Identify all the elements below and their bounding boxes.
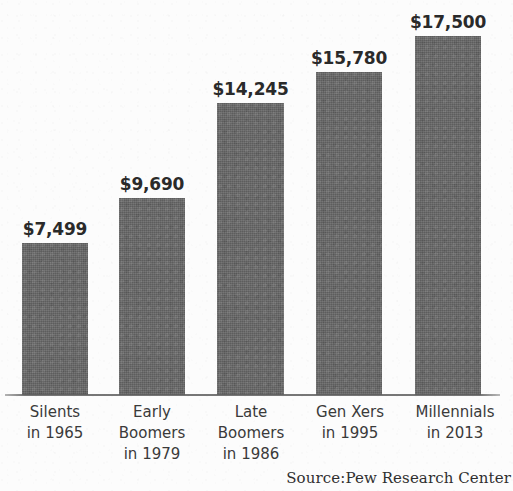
value-label-silents: $7,499 bbox=[23, 219, 87, 239]
bar-early-boomers bbox=[119, 198, 185, 395]
x-label-gen-xers: Gen Xers in 1995 bbox=[300, 402, 400, 444]
bar-group-gen-xers: $15,780 bbox=[316, 72, 382, 395]
bar-group-millennials: $17,500 bbox=[415, 36, 481, 395]
x-label-millennials: Millennials in 2013 bbox=[400, 402, 510, 444]
x-axis-line bbox=[5, 394, 500, 396]
bar-group-silents: $7,499 bbox=[22, 243, 88, 395]
bar-group-late-boomers: $14,245 bbox=[217, 103, 284, 395]
bar-late-boomers bbox=[217, 103, 284, 395]
bar-chart-figure: $7,499 $9,690 $14,245 $15,780 $17,500 Si… bbox=[0, 0, 513, 491]
source-note: Source:Pew Research Center bbox=[286, 469, 511, 487]
value-label-millennials: $17,500 bbox=[410, 12, 486, 32]
x-label-late-boomers: Late Boomers in 1986 bbox=[201, 402, 301, 465]
plot-area: $7,499 $9,690 $14,245 $15,780 $17,500 bbox=[0, 0, 513, 396]
x-label-early-boomers: Early Boomers in 1979 bbox=[102, 402, 202, 465]
x-axis-category-labels: Silents in 1965 Early Boomers in 1979 La… bbox=[0, 402, 513, 464]
value-label-late-boomers: $14,245 bbox=[212, 79, 288, 99]
bar-gen-xers bbox=[316, 72, 382, 395]
x-label-silents: Silents in 1965 bbox=[5, 402, 105, 444]
bar-group-early-boomers: $9,690 bbox=[119, 198, 185, 395]
value-label-gen-xers: $15,780 bbox=[311, 48, 387, 68]
bar-silents bbox=[22, 243, 88, 395]
value-label-early-boomers: $9,690 bbox=[120, 174, 184, 194]
bar-millennials bbox=[415, 36, 481, 395]
